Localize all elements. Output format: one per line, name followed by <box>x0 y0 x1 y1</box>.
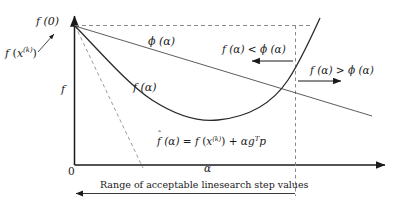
x-axis-label: α <box>204 163 211 174</box>
label-phi-alpha: ϕ (α) <box>148 36 175 47</box>
label-fhat-tail: p <box>259 135 266 147</box>
label-f-zero: f (0) <box>36 16 59 27</box>
fhat-model-dashed-line <box>75 26 143 169</box>
label-f-xk: f (x(k)) <box>5 48 37 59</box>
label-fhat-rhs: + αg <box>229 135 255 147</box>
label-phi-alpha-text: ϕ (α) <box>148 35 175 48</box>
label-f-alpha: f (α) <box>133 82 157 93</box>
label-unacceptable-condition-text: f (α) > ϕ (α) <box>310 64 374 76</box>
label-acceptable-condition: f (α) < ϕ (α) <box>222 44 286 55</box>
label-fhat-lhs: f (α) = f <box>157 135 199 147</box>
origin-label: 0 <box>68 166 75 177</box>
x-axis-label-text: α <box>204 162 211 174</box>
label-f-xk-superscript: (k) <box>23 46 32 54</box>
f-xk-pointer-arrow <box>38 34 54 52</box>
acceptable-range-caption: Range of acceptable linesearch step valu… <box>100 180 308 190</box>
acceptable-range-caption-text: Range of acceptable linesearch step valu… <box>100 179 308 190</box>
linesearch-figure: f (0) f (x(k)) f ϕ (α) f (α) f (α) < ϕ (… <box>0 0 399 210</box>
hat-accent-icon: ˆ <box>157 131 161 140</box>
y-axis-label: f <box>61 84 65 95</box>
label-acceptable-condition-text: f (α) < ϕ (α) <box>222 43 286 55</box>
fhat-hat-group: ˆf (α) = f <box>157 136 199 147</box>
f-alpha-curve <box>75 18 320 120</box>
label-f-zero-text: f (0) <box>36 15 59 28</box>
label-unacceptable-condition: f (α) > ϕ (α) <box>310 65 374 76</box>
y-axis-label-text: f <box>61 83 65 96</box>
label-fhat-superscript: (k) <box>212 135 221 143</box>
label-fhat-equation: ˆf (α) = f (x(k)) + αgTp <box>157 136 266 147</box>
label-f-alpha-text: f (α) <box>133 81 157 94</box>
origin-label-text: 0 <box>68 165 75 177</box>
